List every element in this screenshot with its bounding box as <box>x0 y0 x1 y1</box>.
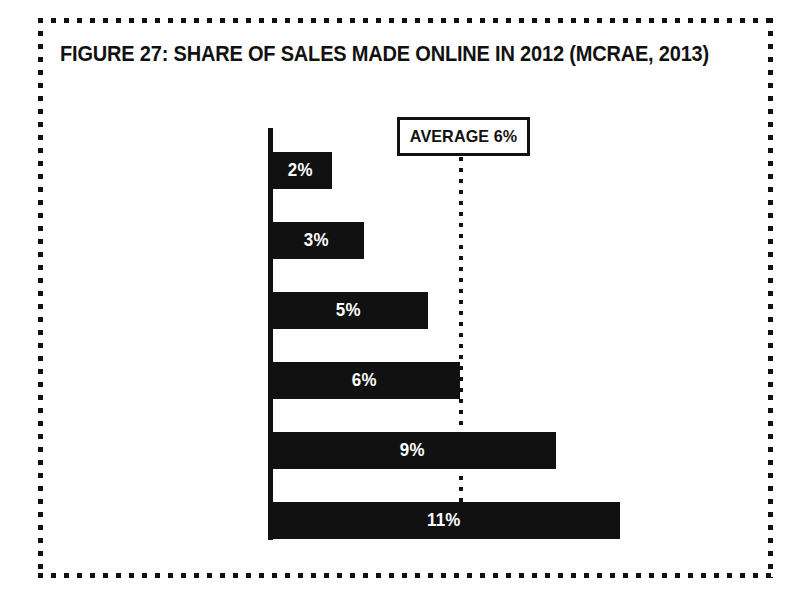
bar-us: 9% <box>268 432 556 469</box>
chart-plot-area: AVERAGE 6% ITALY2%CHINA3%FRA5%GER6%US9%U… <box>0 0 795 598</box>
bar-fra: 5% <box>268 292 428 329</box>
category-axis-line <box>268 128 273 540</box>
bar-value-label-fra: 5% <box>336 300 361 321</box>
average-reference-line <box>459 157 463 542</box>
bar-uk: 11% <box>268 502 620 539</box>
bar-italy: 2% <box>268 152 332 189</box>
bar-value-label-us: 9% <box>400 440 425 461</box>
bar-value-label-italy: 2% <box>288 160 313 181</box>
bar-china: 3% <box>268 222 364 259</box>
bar-ger: 6% <box>268 362 460 399</box>
bar-value-label-china: 3% <box>304 230 329 251</box>
bar-value-label-uk: 11% <box>427 510 461 531</box>
average-callout-box: AVERAGE 6% <box>397 117 530 156</box>
figure-container: FIGURE 27: SHARE OF SALES MADE ONLINE IN… <box>0 0 795 598</box>
bar-value-label-ger: 6% <box>352 370 377 391</box>
average-callout-label: AVERAGE 6% <box>410 127 517 147</box>
